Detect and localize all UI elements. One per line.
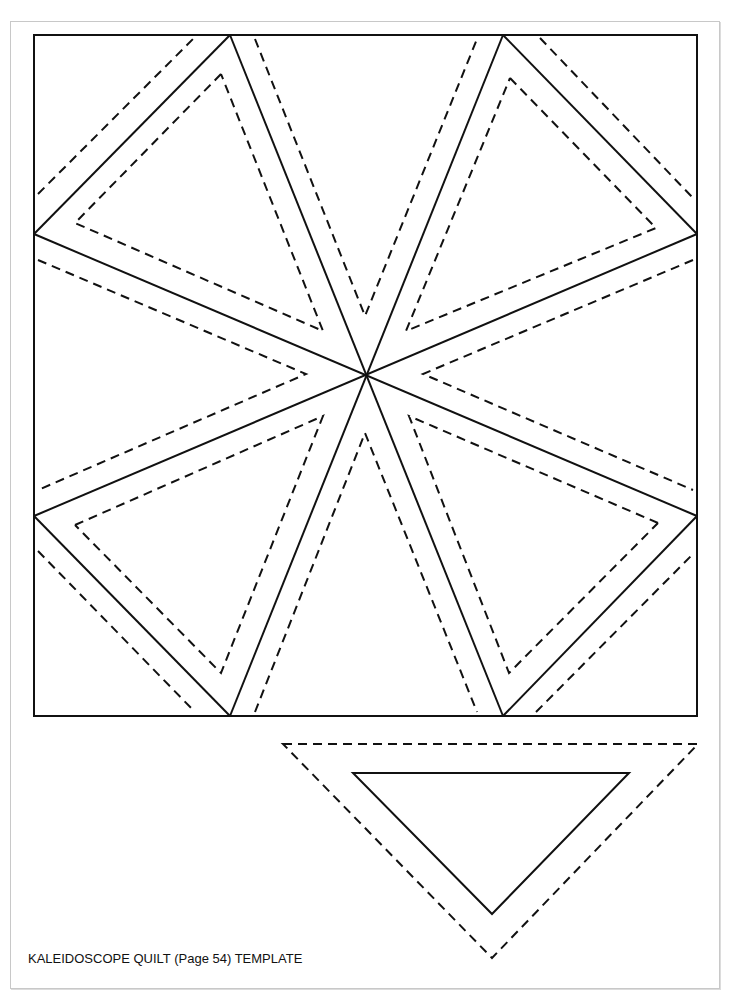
seam-corner-br [536, 554, 693, 712]
template-piece [283, 744, 698, 958]
seam-wedge-top [255, 39, 477, 316]
seam-wedge-right [423, 260, 693, 490]
template-cut-outline [353, 773, 629, 914]
kaleidoscope-quilt-diagram [0, 0, 736, 1005]
seam-corner-tl [38, 37, 195, 194]
corner-line-br [503, 516, 697, 716]
seam-petal-tr [406, 78, 656, 331]
seam-corner-bl [38, 551, 195, 712]
corner-line-tr [503, 35, 697, 234]
seam-wedge-left [38, 260, 306, 490]
template-seam-outline [283, 744, 698, 958]
seam-corner-tr [540, 38, 693, 198]
corner-line-bl [34, 516, 230, 716]
template-caption: KALEIDOSCOPE QUILT (Page 54) TEMPLATE [28, 951, 302, 966]
quilt-block [34, 35, 697, 716]
corner-line-tl [34, 35, 230, 234]
